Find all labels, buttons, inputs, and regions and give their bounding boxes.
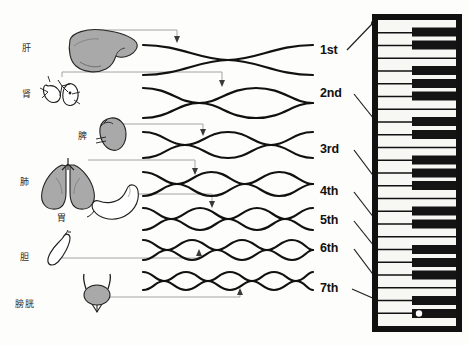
ordinal-label-3rd: 3rd — [320, 143, 339, 156]
kidney-icon — [40, 76, 80, 105]
organ-label-lung: 肺 — [20, 178, 30, 187]
wave-2nd — [143, 88, 313, 118]
ordinal-label-1st: 1st — [320, 44, 337, 57]
stomach-icon — [87, 185, 138, 219]
black-keys[interactable] — [412, 28, 456, 319]
ordinal-label-2nd: 2nd — [320, 87, 342, 100]
bladder-icon — [84, 274, 111, 312]
ordinal-label-5th: 5th — [320, 214, 338, 227]
wave-1st — [143, 45, 313, 75]
ordinal-label-6th: 6th — [320, 242, 338, 255]
wave-5th — [143, 208, 313, 230]
organ-label-liver: 肝 — [22, 44, 32, 53]
ordinal-leader-1st — [347, 24, 372, 50]
figure-canvas: 肝 肾 脾 肺 胃 胆 膀胱 1st 2nd 3rd 4th 5th 6th 7… — [0, 0, 469, 345]
organ-label-kidney: 肾 — [22, 90, 32, 99]
liver-icon — [69, 30, 137, 72]
lung-icon — [42, 158, 95, 209]
wave-3rd — [143, 132, 313, 158]
piano-keyboard[interactable] — [372, 14, 462, 332]
leader-bladder — [104, 291, 240, 297]
organ-label-bladder: 膀胱 — [15, 300, 34, 309]
leader-stomach — [127, 194, 212, 205]
spleen-icon — [96, 118, 126, 150]
marked-key-dot — [416, 310, 422, 316]
gallbladder-icon — [48, 230, 71, 265]
leader-lung — [88, 160, 195, 172]
leader-kidney — [62, 72, 222, 84]
organ-label-spleen: 脾 — [78, 132, 88, 141]
organ-label-gallbladder: 胆 — [20, 253, 30, 262]
harmonic-waves — [143, 45, 313, 290]
ordinal-label-4th: 4th — [320, 185, 338, 198]
wave-4th — [143, 172, 313, 196]
wave-6th — [143, 240, 313, 260]
diagram-svg — [0, 0, 469, 345]
organ-label-stomach: 胃 — [57, 214, 67, 223]
ordinal-label-7th: 7th — [320, 282, 338, 295]
wave-7th — [143, 272, 313, 290]
